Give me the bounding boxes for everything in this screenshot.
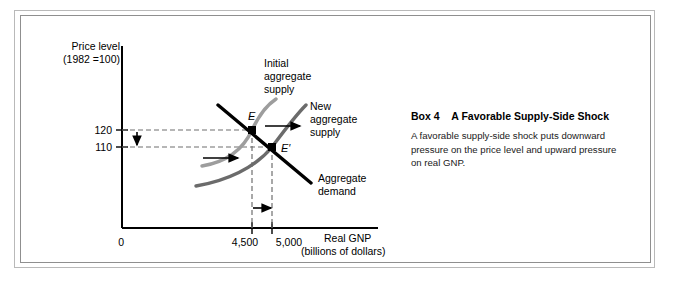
aggregate-demand-label-line2: demand [318,185,356,198]
x-axis-title-line1: Real GNP [324,232,371,245]
x-axis-title-line2: (billions of dollars) [301,245,386,258]
box-heading-gap [440,110,452,122]
equilibrium-initial-marker [248,126,256,134]
box-body-text: A favorable supply-side shock puts downw… [411,129,629,170]
box-panel: Box 4 A Favorable Supply-Side Shock A fa… [411,110,629,170]
initial-aggregate-supply-label-line3: supply [264,83,294,96]
new-aggregate-supply-label-line3: supply [310,126,340,139]
new-aggregate-supply-label-line1: New [310,100,331,113]
x-axis-origin-label: 0 [108,236,124,249]
y-axis-title-line2: (1982 =100) [36,53,120,66]
y-axis-title-line1: Price level [46,40,120,53]
new-aggregate-supply-label-line2: aggregate [310,113,357,126]
x-tick-label-4500: 4,500 [226,236,264,249]
equilibrium-new-label: E′ [281,142,290,155]
box-number-label: Box 4 [411,110,440,122]
box-title: A Favorable Supply-Side Shock [451,110,609,122]
box-heading: Box 4 A Favorable Supply-Side Shock [411,110,629,122]
initial-aggregate-supply-label-line1: Initial [264,57,289,70]
equilibrium-initial-label: E [248,110,255,123]
y-tick-label-120: 120 [78,124,112,137]
figure-root: Price level (1982 =100) 120 110 0 4,500 … [0,0,685,293]
y-tick-label-110: 110 [78,141,112,154]
initial-aggregate-supply-label-line2: aggregate [264,70,311,83]
aggregate-demand-label-line1: Aggregate [318,172,366,185]
equilibrium-new-marker [268,143,276,151]
